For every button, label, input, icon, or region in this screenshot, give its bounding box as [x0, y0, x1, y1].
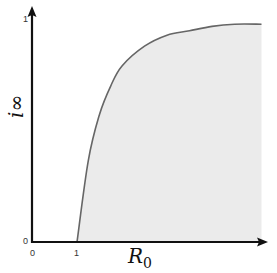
x-axis-label: R0: [128, 244, 152, 271]
chart-canvas: [0, 0, 277, 273]
y-tick-1: 1: [23, 14, 28, 24]
shaded-area: [77, 24, 262, 242]
x-axis-label-main: R: [128, 244, 143, 268]
x-tick-1: 1: [74, 248, 79, 258]
y-tick-0: 0: [23, 236, 28, 246]
x-axis-label-sub: 0: [143, 255, 152, 271]
y-axis-label: i∞: [4, 95, 28, 118]
x-tick-0: 0: [30, 248, 35, 258]
